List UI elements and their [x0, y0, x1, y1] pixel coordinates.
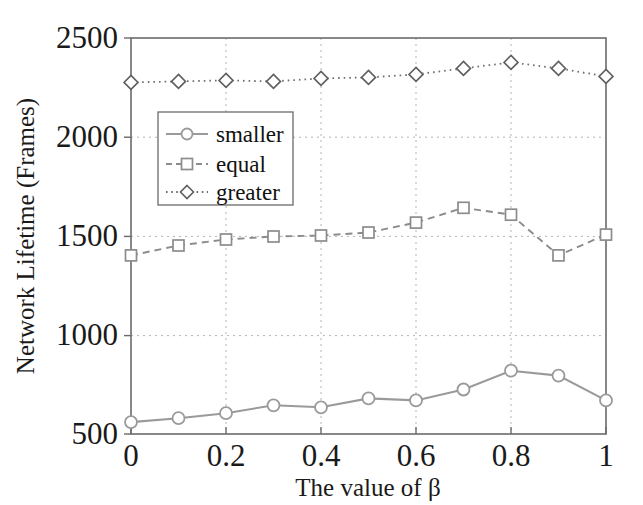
y-axis-title: Network Lifetime (Frames)	[12, 98, 40, 374]
series-greater	[124, 55, 613, 89]
marker-square	[601, 229, 612, 240]
marker-circle	[553, 370, 565, 382]
legend-label-greater: greater	[216, 180, 280, 205]
marker-circle	[315, 401, 327, 413]
legend-label-smaller: smaller	[216, 122, 284, 147]
x-tick-label-0.6: 0.6	[397, 438, 436, 473]
marker-square	[268, 231, 279, 242]
marker-diamond	[599, 69, 613, 83]
chart-figure: smaller equal greater 2500 2000 1500 100…	[0, 0, 643, 505]
x-tick-label-0.2: 0.2	[207, 438, 246, 473]
series-equal-markers	[126, 202, 612, 261]
y-tick-label-2000: 2000	[56, 119, 118, 154]
x-axis-tick-labels: 0 0.2 0.4 0.6 0.8 1	[123, 438, 614, 473]
marker-square	[221, 234, 232, 245]
marker-diamond	[124, 75, 138, 89]
legend-marker-square-icon	[182, 159, 193, 170]
marker-square	[316, 230, 327, 241]
marker-square	[411, 217, 422, 228]
x-tick-label-1: 1	[598, 438, 614, 473]
marker-square	[126, 250, 137, 261]
x-tick-label-0.4: 0.4	[302, 438, 341, 473]
marker-diamond	[552, 61, 566, 75]
series-greater-markers	[124, 55, 613, 89]
y-tick-label-500: 500	[72, 416, 119, 451]
series-equal	[126, 202, 612, 261]
legend-label-equal: equal	[216, 152, 266, 177]
legend-marker-circle-icon	[182, 129, 193, 140]
marker-diamond	[267, 74, 281, 88]
y-axis-tick-labels: 2500 2000 1500 1000 500	[56, 20, 118, 451]
marker-circle	[173, 412, 185, 424]
marker-circle	[220, 407, 232, 419]
marker-square	[506, 209, 517, 220]
marker-circle	[268, 399, 280, 411]
x-tick-label-0: 0	[123, 438, 139, 473]
marker-square	[173, 240, 184, 251]
line-chart: smaller equal greater 2500 2000 1500 100…	[0, 0, 643, 505]
marker-square	[458, 202, 469, 213]
marker-diamond	[362, 70, 376, 84]
marker-diamond	[172, 74, 186, 88]
marker-diamond	[219, 73, 233, 87]
marker-circle	[458, 384, 470, 396]
marker-circle	[410, 394, 422, 406]
marker-circle	[125, 416, 137, 428]
marker-diamond	[409, 67, 423, 81]
marker-circle	[363, 392, 375, 404]
series-smaller	[125, 365, 612, 428]
marker-circle	[600, 394, 612, 406]
x-tick-label-0.8: 0.8	[492, 438, 531, 473]
chart-legend: smaller equal greater	[158, 112, 293, 205]
marker-diamond	[314, 71, 328, 85]
y-tick-label-1500: 1500	[56, 218, 118, 253]
x-axis-title: The value of β	[295, 474, 440, 501]
marker-diamond	[504, 55, 518, 69]
marker-circle	[505, 365, 517, 377]
marker-square	[553, 250, 564, 261]
marker-square	[363, 227, 374, 238]
y-tick-label-1000: 1000	[56, 317, 118, 352]
y-tick-label-2500: 2500	[56, 20, 118, 55]
marker-diamond	[457, 61, 471, 75]
